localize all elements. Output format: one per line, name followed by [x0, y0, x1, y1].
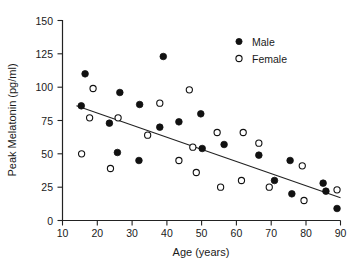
data-point-male [334, 205, 341, 212]
data-point-male [176, 119, 183, 126]
y-axis-title: Peak Melatonin (pg/ml) [6, 63, 18, 176]
data-point-female [301, 197, 307, 203]
data-point-female [238, 177, 244, 183]
data-point-female [145, 132, 151, 138]
data-point-male [114, 149, 121, 156]
data-point-male [323, 188, 330, 195]
data-point-male [106, 120, 113, 127]
x-tick-label-40: 40 [161, 227, 173, 239]
data-point-female [266, 184, 272, 190]
x-tick-label-90: 90 [335, 227, 347, 239]
series-female-points [79, 85, 341, 203]
melatonin-age-scatter-chart: 150 125 100 75 50 25 0 10 20 30 40 50 [0, 0, 358, 269]
data-point-female [190, 144, 196, 150]
data-point-female [193, 169, 199, 175]
x-tick-label-20: 20 [91, 227, 103, 239]
data-point-female [240, 129, 246, 135]
axes-group [62, 20, 341, 221]
y-tick-label-25: 25 [41, 181, 53, 193]
data-point-female [214, 129, 220, 135]
data-point-male [320, 180, 327, 187]
data-point-male [136, 101, 143, 108]
y-tick-label-0: 0 [47, 215, 53, 227]
data-point-female [186, 87, 192, 93]
data-point-female [115, 115, 121, 121]
data-point-female [176, 157, 182, 163]
data-point-male [271, 177, 278, 184]
data-point-male [136, 157, 143, 164]
data-point-female [87, 115, 93, 121]
y-axis-ticks [58, 21, 63, 221]
data-point-female [90, 85, 96, 91]
data-point-male [199, 145, 206, 152]
chart-svg: 150 125 100 75 50 25 0 10 20 30 40 50 [0, 0, 358, 269]
data-point-female [299, 163, 305, 169]
x-tick-label-70: 70 [265, 227, 277, 239]
x-axis-ticks [63, 221, 341, 226]
y-tick-label-50: 50 [41, 148, 53, 160]
y-axis-tick-labels: 150 125 100 75 50 25 0 [35, 15, 53, 227]
data-point-male [221, 141, 228, 148]
legend-marker-male [236, 38, 242, 44]
x-tick-label-10: 10 [57, 227, 69, 239]
data-point-male [78, 103, 85, 110]
data-point-male [82, 71, 89, 78]
data-point-male [198, 111, 205, 118]
x-axis-tick-labels: 10 20 30 40 50 60 70 80 90 [57, 227, 347, 239]
chart-legend: Male Female [236, 36, 287, 65]
x-tick-label-80: 80 [300, 227, 312, 239]
data-point-male [289, 191, 296, 198]
data-point-female [218, 184, 224, 190]
data-point-female [157, 100, 163, 106]
series-male-points [78, 53, 340, 212]
data-point-male [287, 157, 294, 164]
data-point-male [160, 53, 167, 60]
legend-label-male: Male [252, 36, 275, 48]
legend-label-female: Female [252, 53, 287, 65]
data-point-female [107, 165, 113, 171]
y-tick-label-125: 125 [35, 48, 53, 60]
data-point-male [157, 124, 164, 131]
data-point-male [117, 89, 124, 96]
legend-marker-female [236, 55, 242, 61]
data-point-female [79, 151, 85, 157]
x-tick-label-60: 60 [231, 227, 243, 239]
x-tick-label-50: 50 [196, 227, 208, 239]
y-tick-label-150: 150 [35, 15, 53, 27]
data-point-male [256, 152, 263, 159]
data-point-female [334, 187, 340, 193]
y-tick-label-100: 100 [35, 81, 53, 93]
x-axis-title: Age (years) [173, 246, 230, 258]
data-point-female [256, 140, 262, 146]
x-tick-label-30: 30 [126, 227, 138, 239]
y-tick-label-75: 75 [41, 115, 53, 127]
